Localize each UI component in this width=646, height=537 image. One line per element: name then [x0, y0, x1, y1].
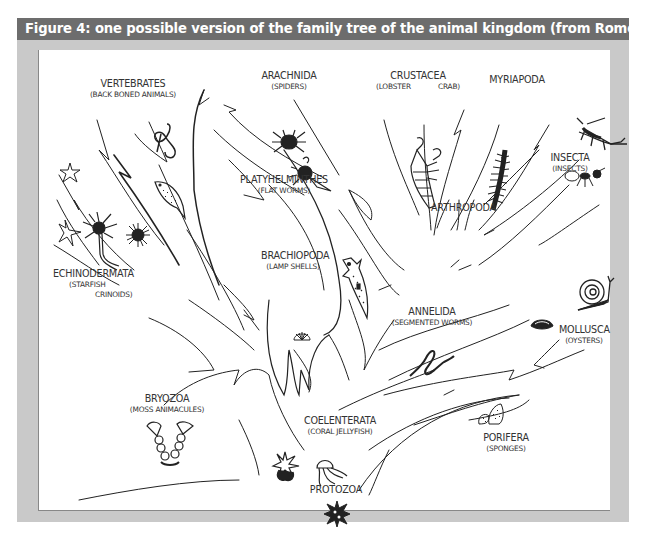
coral-icon	[271, 450, 301, 482]
starfish-icon	[59, 162, 81, 184]
crustacea-common-lobster: (LOBSTER	[376, 82, 411, 91]
figure: Figure 4: one possible version of the fa…	[17, 18, 629, 522]
label-vertebrates: VERTEBRATES (BACK BONED ANIMALS)	[85, 78, 181, 99]
crinoid-icon	[79, 210, 123, 274]
label-platyhelminthes: PLATYHELMINTHES (FLAT WORMS)	[239, 174, 329, 195]
figure-frame: VERTEBRATES (BACK BONED ANIMALS) ARACHNI…	[17, 40, 629, 522]
label-coelenterata: COELENTERATA (CORAL JELLYFISH)	[303, 415, 377, 436]
figure-title: Figure 4: one possible version of the fa…	[17, 18, 629, 40]
sea-urchin-icon	[125, 222, 151, 248]
crustacea-common-crab: CRAB)	[438, 82, 460, 91]
label-annelida: ANNELIDA (SEGMENTED WORMS)	[391, 306, 473, 327]
snail-icon	[574, 272, 618, 314]
label-crustacea: CRUSTACEA (LOBSTER CRAB)	[376, 70, 460, 91]
label-arachnida: ARACHNIDA (SPIDERS)	[257, 70, 321, 91]
label-myriapoda: MYRIAPODA	[485, 74, 549, 85]
label-echinodermata: ECHINODERMATA (STARFISH CRINOIDS)	[53, 268, 133, 299]
snake-icon	[147, 122, 183, 166]
label-brachiopoda: BRACHIOPODA (LAMP SHELLS)	[261, 250, 325, 271]
spider-icon	[271, 128, 307, 154]
label-protozoa: PROTOZOA	[309, 484, 363, 495]
label-mollusca: MOLLUSCA (OYSTERS)	[559, 324, 609, 345]
sponge-icon	[477, 402, 507, 426]
bryozoan-icon	[143, 420, 195, 472]
oyster-icon	[529, 316, 555, 332]
segmented-worm-icon	[408, 346, 456, 380]
lobster-icon	[403, 136, 447, 212]
flatworm-icon	[341, 256, 375, 320]
label-porifera: PORIFERA (SPONGES)	[483, 432, 529, 453]
lamp-shell-icon	[292, 328, 312, 344]
amoeba-icon	[323, 500, 351, 528]
tree-panel: VERTEBRATES (BACK BONED ANIMALS) ARACHNI…	[38, 50, 610, 511]
label-arthropoda: ARTHROPODA	[431, 202, 495, 213]
grasshopper-icon	[571, 116, 633, 156]
fish-icon	[151, 178, 191, 222]
label-bryozoa: BRYOZOA (MOSS ANIMACULES)	[127, 393, 207, 414]
label-insecta: INSECTA (INSECTS)	[545, 152, 595, 173]
